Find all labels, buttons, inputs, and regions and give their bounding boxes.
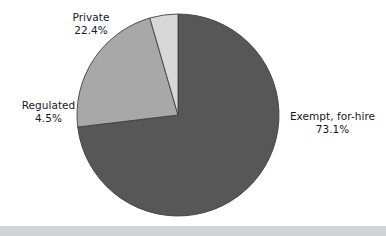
- pie-label-private: Private 22.4%: [68, 11, 114, 36]
- pie-label-private-name: Private: [68, 11, 114, 24]
- pie-label-private-value: 22.4%: [68, 24, 114, 37]
- pie-label-regulated: Regulated 4.5%: [18, 99, 79, 124]
- pie-label-regulated-value: 4.5%: [18, 112, 79, 125]
- pie-slice-group: [77, 14, 279, 216]
- pie-label-exempt-value: 73.1%: [288, 123, 377, 136]
- pie-label-regulated-name: Regulated: [18, 99, 79, 112]
- pie-chart-screenshot: Private 22.4% Regulated 4.5% Exempt, for…: [0, 0, 386, 236]
- pie-label-exempt-name: Exempt, for-hire: [288, 110, 377, 123]
- pie-label-exempt: Exempt, for-hire 73.1%: [288, 110, 377, 135]
- bottom-divider-band: [0, 226, 386, 236]
